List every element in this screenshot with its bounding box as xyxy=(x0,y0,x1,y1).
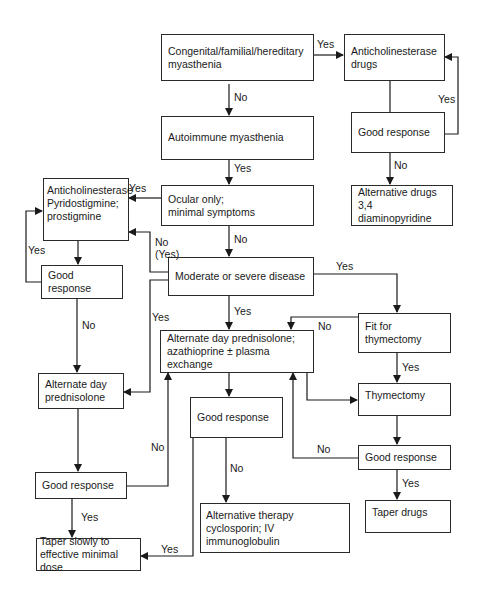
edge-label-good-response-right-yes: Yes xyxy=(402,477,419,489)
node-alternate-day-prednisolone-azathioprine: Alternate day prednisolone; azathioprine… xyxy=(160,330,314,373)
node-text: Thymectomy xyxy=(365,389,425,402)
edge-label-congenital-yes: Yes xyxy=(317,38,334,50)
node-ocular-only: Ocular only; minimal symptoms xyxy=(161,185,314,226)
node-text: Good response xyxy=(48,269,116,295)
edge-label-good-response-l2-no: No xyxy=(151,441,164,453)
edge-label-moderate-yes-right: Yes xyxy=(336,260,353,272)
node-taper-slowly: Taper slowly to effective minimal dose xyxy=(36,538,141,571)
node-text: Good response xyxy=(365,451,437,464)
node-text: Taper drugs xyxy=(372,506,427,519)
node-good-response-left-2: Good response xyxy=(35,472,127,499)
node-autoimmune-myasthenia: Autoimmune myasthenia xyxy=(161,116,314,160)
node-text: Ocular only; minimal symptoms xyxy=(168,193,255,219)
node-text: Anticholinesterase Pyridostigmine; prost… xyxy=(47,184,133,223)
node-text: Autoimmune myasthenia xyxy=(168,131,284,144)
edge-label-ocular-yes: Yes xyxy=(129,182,146,194)
edge-label-fit-no: No xyxy=(318,320,331,332)
node-text: Taper slowly to effective minimal dose xyxy=(40,535,137,574)
edge-label-good-response-right-no: No xyxy=(317,443,330,455)
edge-label-moderate-yes-down: Yes xyxy=(234,305,251,317)
edge-label-good-response-l2-yes: Yes xyxy=(81,511,98,523)
node-text: Congenital/familial/hereditary myastheni… xyxy=(168,45,303,71)
edge-label-congenital-no: No xyxy=(234,91,247,103)
edge-label-good-response-no: No xyxy=(394,159,407,171)
node-moderate-severe-disease: Moderate or severe disease xyxy=(168,257,314,296)
node-alternate-day-prednisolone-left: Alternate day prednisolone xyxy=(38,373,124,409)
node-text: Good response xyxy=(358,126,430,139)
edge-label-ocular-no: No xyxy=(234,233,247,245)
node-text: Anticholinesterase drugs xyxy=(351,45,437,71)
edge-label-autoimmune-yes: Yes xyxy=(234,162,251,174)
edge-label-moderate-yes-left: Yes xyxy=(152,311,169,323)
node-alternative-drugs: Alternative drugs 3,4 diaminopyridine xyxy=(351,185,453,226)
edge-label-good-response-l1-yes: Yes xyxy=(28,244,45,256)
edge-label-good-response-center-yes: Yes xyxy=(161,543,178,555)
node-text: Alternate day prednisolone xyxy=(45,378,107,404)
node-text: Alternative drugs 3,4 diaminopyridine xyxy=(358,186,446,225)
node-fit-for-thymectomy: Fit for thymectomy xyxy=(358,313,451,353)
node-good-response-left-1: Good response xyxy=(41,265,123,299)
node-text: Good response xyxy=(42,479,114,492)
node-good-response-top-right: Good response xyxy=(351,112,445,153)
edge-label-moderate-no-yes: No (Yes) xyxy=(155,236,179,260)
node-text: Good response xyxy=(197,411,269,424)
node-taper-drugs: Taper drugs xyxy=(365,500,451,533)
node-anticholinesterase-drugs: Anticholinesterase drugs xyxy=(344,34,445,81)
edge-label-good-response-center-no: No xyxy=(230,462,243,474)
node-text: Alternative therapy cyclosporin; IV immu… xyxy=(206,509,344,548)
edge-label-good-response-l1-no: No xyxy=(82,319,95,331)
node-alternative-therapy: Alternative therapy cyclosporin; IV immu… xyxy=(200,503,350,553)
node-thymectomy: Thymectomy xyxy=(358,383,451,416)
edge-label-fit-yes: Yes xyxy=(402,361,419,373)
node-text: Moderate or severe disease xyxy=(175,270,305,283)
edge-label-good-response-yes: Yes xyxy=(438,93,455,105)
node-good-response-center: Good response xyxy=(190,397,283,438)
node-congenital-myasthenia: Congenital/familial/hereditary myastheni… xyxy=(161,34,314,81)
node-text: Alternate day prednisolone; azathioprine… xyxy=(167,332,295,371)
node-good-response-right: Good response xyxy=(358,445,451,470)
node-anticholinesterase-pyridostigmine: Anticholinesterase Pyridostigmine; prost… xyxy=(43,178,129,241)
node-text: Fit for thymectomy xyxy=(365,320,444,346)
